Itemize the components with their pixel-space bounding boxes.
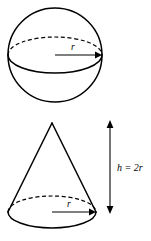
cone-group: r [8, 123, 96, 228]
cone-base-back-arc-dashed [8, 196, 96, 212]
sphere-radius-label: r [71, 42, 75, 52]
geometry-diagram-svg: r r h = [0, 0, 151, 241]
cone-base-front-arc-solid [8, 212, 96, 228]
height-top-arrowhead [107, 120, 114, 128]
height-bottom-arrowhead [107, 206, 114, 214]
cone-height-dimension-group: h = 2r [107, 120, 143, 214]
cone-radius-label: r [67, 199, 71, 209]
geometry-figure: r r h = [0, 0, 151, 241]
cone-right-slant-line [52, 123, 96, 212]
height-dimension-label: h = 2r [117, 162, 143, 173]
sphere-equator-front-arc-solid [8, 55, 102, 73]
sphere-group: r [8, 8, 102, 102]
sphere-equator-back-arc-dashed [8, 37, 102, 55]
